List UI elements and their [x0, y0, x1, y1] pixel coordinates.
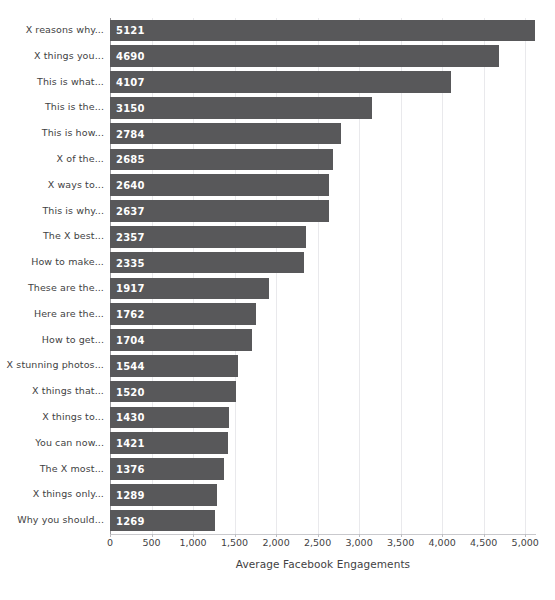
category-label: X things only... [0, 488, 104, 499]
bar-value-label: 2637 [116, 205, 145, 216]
bar-value-label: 1269 [116, 515, 145, 526]
bar: 1421 [110, 432, 228, 454]
bar-row: 1544 [110, 355, 536, 377]
bar-value-label: 2335 [116, 257, 145, 268]
bar-row: 1430 [110, 407, 536, 429]
bar: 1917 [110, 278, 269, 300]
bar-value-label: 1544 [116, 360, 145, 371]
bar-value-label: 1421 [116, 438, 145, 449]
x-tick-label: 4,500 [470, 537, 497, 548]
bar-rows: 5121469041073150278426852640263723572335… [110, 18, 536, 534]
bar-value-label: 2640 [116, 180, 145, 191]
bar: 4107 [110, 71, 451, 93]
bar: 1762 [110, 303, 256, 325]
bar-row: 5121 [110, 20, 536, 42]
bar-value-label: 1430 [116, 412, 145, 423]
x-tick-label: 1,500 [221, 537, 248, 548]
bar-value-label: 2784 [116, 128, 145, 139]
category-label: X of the... [0, 153, 104, 164]
x-tick-label: 4,000 [429, 537, 456, 548]
bar: 1704 [110, 329, 252, 351]
category-label: X things you... [0, 50, 104, 61]
category-label: This is why... [0, 205, 104, 216]
x-tick-label: 3,000 [346, 537, 373, 548]
bar-value-label: 5121 [116, 25, 145, 36]
x-tick-label: 0 [107, 537, 113, 548]
category-label: This is what... [0, 76, 104, 87]
bar: 3150 [110, 97, 372, 119]
x-axis-tick-labels: 05001,0001,5002,0002,5003,0003,5004,0004… [110, 537, 536, 553]
x-tick-label: 2,000 [262, 537, 289, 548]
bar: 1544 [110, 355, 238, 377]
category-label: You can now... [0, 437, 104, 448]
category-label: Why you should... [0, 514, 104, 525]
bar: 2335 [110, 252, 304, 274]
category-label: This is how... [0, 127, 104, 138]
bar-row: 3150 [110, 97, 536, 119]
bar-value-label: 4107 [116, 76, 145, 87]
bar-value-label: 2685 [116, 154, 145, 165]
x-axis-line [110, 534, 536, 535]
bar: 5121 [110, 20, 535, 42]
bar-row: 1376 [110, 458, 536, 480]
bar: 1520 [110, 381, 236, 403]
bar: 2640 [110, 174, 329, 196]
category-label: This is the... [0, 101, 104, 112]
category-label: The X most... [0, 463, 104, 474]
bar-value-label: 3150 [116, 102, 145, 113]
x-tick-label: 500 [142, 537, 160, 548]
x-tick-label: 2,500 [304, 537, 331, 548]
bar: 4690 [110, 45, 499, 67]
bar-row: 1762 [110, 303, 536, 325]
bar-value-label: 1704 [116, 334, 145, 345]
category-label: Here are the... [0, 308, 104, 319]
bar-row: 2357 [110, 226, 536, 248]
bar-row: 1520 [110, 381, 536, 403]
bar: 2637 [110, 200, 329, 222]
x-tick-label: 5,000 [512, 537, 539, 548]
category-label: How to make... [0, 256, 104, 267]
bar: 1269 [110, 510, 215, 532]
bar-row: 1421 [110, 432, 536, 454]
facebook-engagement-bar-chart: 5121469041073150278426852640263723572335… [0, 0, 555, 600]
bar-row: 1289 [110, 484, 536, 506]
category-label: X ways to... [0, 179, 104, 190]
bar-value-label: 1762 [116, 309, 145, 320]
category-axis-labels: X reasons why...X things you...This is w… [0, 18, 104, 534]
bar-row: 1917 [110, 278, 536, 300]
category-label: X stunning photos... [0, 359, 104, 370]
category-label: The X best... [0, 230, 104, 241]
category-label: These are the... [0, 282, 104, 293]
bar-row: 1704 [110, 329, 536, 351]
bar-row: 2784 [110, 123, 536, 145]
bar: 1376 [110, 458, 224, 480]
bar: 2784 [110, 123, 341, 145]
bar-row: 2637 [110, 200, 536, 222]
category-label: X reasons why... [0, 24, 104, 35]
bar-value-label: 2357 [116, 231, 145, 242]
bar-row: 1269 [110, 510, 536, 532]
bar: 2357 [110, 226, 306, 248]
bar-row: 4690 [110, 45, 536, 67]
bar: 2685 [110, 149, 333, 171]
plot-area: 5121469041073150278426852640263723572335… [110, 18, 536, 534]
x-tick-label: 3,500 [387, 537, 414, 548]
bar-row: 2685 [110, 149, 536, 171]
category-label: X things that... [0, 385, 104, 396]
x-tick-label: 1,000 [179, 537, 206, 548]
category-label: X things to... [0, 411, 104, 422]
bar: 1430 [110, 407, 229, 429]
bar-row: 2640 [110, 174, 536, 196]
bar: 1289 [110, 484, 217, 506]
bar-row: 4107 [110, 71, 536, 93]
bar-value-label: 1520 [116, 386, 145, 397]
category-label: How to get... [0, 334, 104, 345]
bar-row: 2335 [110, 252, 536, 274]
bar-value-label: 1289 [116, 489, 145, 500]
x-axis-title: Average Facebook Engagements [110, 558, 536, 570]
bar-value-label: 1376 [116, 463, 145, 474]
bar-value-label: 4690 [116, 51, 145, 62]
bar-value-label: 1917 [116, 283, 145, 294]
